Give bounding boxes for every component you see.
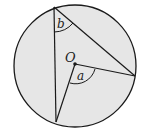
label-b: b: [57, 17, 65, 31]
label-a: a: [77, 69, 84, 83]
circle: [14, 5, 136, 127]
label-O: O: [65, 50, 76, 65]
circle-theorem-diagram: O a b: [0, 0, 144, 136]
